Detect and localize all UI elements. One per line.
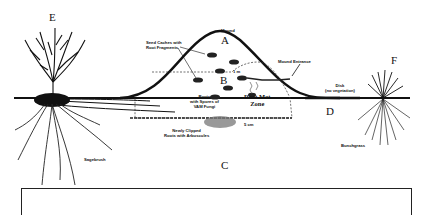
label-F: F xyxy=(391,55,397,66)
annotation-bunchgrass: Bunchgrass xyxy=(341,144,365,149)
label-A: A xyxy=(221,35,229,46)
tunnel xyxy=(247,78,290,80)
entrance-pointer xyxy=(292,64,300,76)
label-D: D xyxy=(326,106,334,117)
nest-zone-boundary xyxy=(135,62,292,118)
annotation-clipped-roots: Newly Clipped Roots with Arbuscules xyxy=(164,129,209,139)
caption-box xyxy=(21,188,412,215)
annotation-1m: 1 m xyxy=(233,70,240,75)
bunchgrass-blades xyxy=(368,70,403,98)
annotation-root-mat-zone: Root Mat Zone xyxy=(244,94,271,108)
annotation-seed-caches: Seed Caches with Root Fragments xyxy=(146,41,182,51)
annotation-disk: Disk (no vegetation) xyxy=(325,84,355,94)
annotation-5cm: 5 cm xyxy=(244,123,254,128)
annotation-mound: Mound xyxy=(221,29,235,34)
diagram-canvas: E A B C D F Mound Seed Caches with Root … xyxy=(0,0,432,215)
bunchgrass-roots xyxy=(358,99,410,145)
label-C: C xyxy=(221,160,228,171)
sagebrush-canopy xyxy=(25,28,85,97)
label-E: E xyxy=(49,12,56,23)
annotation-roots-vam-spores: Roots with Spores of VAM Fungi xyxy=(190,95,219,109)
annotation-mound-entrance: Mound Entrance xyxy=(278,60,311,65)
label-B: B xyxy=(220,75,227,86)
sagebrush-roots xyxy=(15,104,112,185)
stippled-soil-pocket xyxy=(204,116,236,128)
annotation-sagebrush: Sagebrush xyxy=(84,158,106,163)
